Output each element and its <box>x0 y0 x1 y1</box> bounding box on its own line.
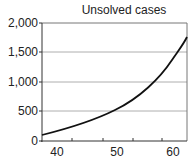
y-tick-label-1500: 1,500 <box>8 45 38 59</box>
y-tick-label-0: 0 <box>31 134 38 148</box>
x-tick-label-50: 50 <box>110 145 124 159</box>
x-tick-label-40: 40 <box>50 145 64 159</box>
chart: Unsolved cases 2,000 1,500 1,000 500 0 4… <box>0 0 196 163</box>
y-tick-label-1000: 1,000 <box>8 75 38 89</box>
y-tick-label-500: 500 <box>18 104 38 118</box>
chart-title: Unsolved cases <box>82 3 167 17</box>
plot-frame <box>41 23 187 142</box>
x-tick-label-60: 60 <box>166 145 180 159</box>
gridlines <box>42 52 187 111</box>
y-tick-label-2000: 2,000 <box>8 16 38 30</box>
